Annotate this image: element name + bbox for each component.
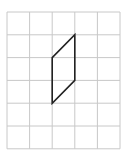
grid — [7, 12, 120, 149]
grid-diagram — [0, 0, 123, 150]
parallelogram — [52, 35, 75, 103]
